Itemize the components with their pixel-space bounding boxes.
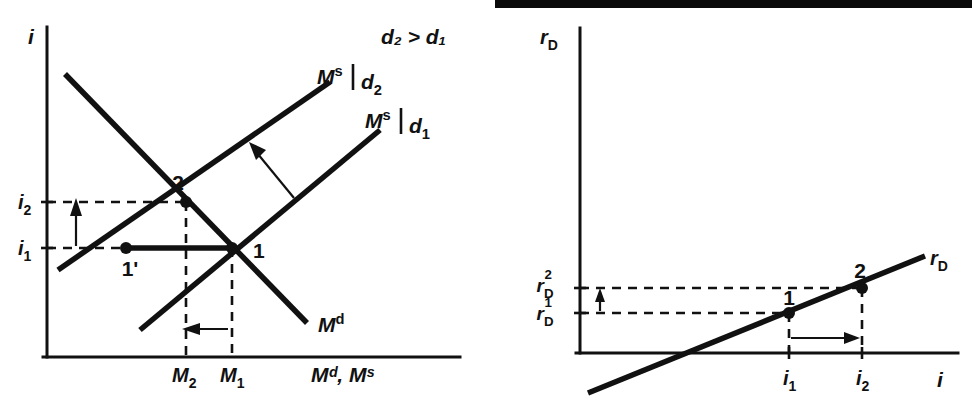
deposit-rate-curve [588, 256, 925, 393]
rd2-sup: 2 [545, 267, 552, 282]
point-2-label: 2 [172, 171, 184, 194]
supply-shift-arrow [249, 142, 294, 198]
rd1-sup: 1 [545, 295, 553, 310]
economics-figure: i Mᵈ, Mˢ d₂ > d₁ Md Ms d1 Ms d2 [0, 0, 972, 412]
ms2-base: M [317, 65, 335, 88]
supply-condition-note: d₂ > d₁ [381, 25, 446, 48]
money-supply-d2-condition: d2 [361, 70, 382, 98]
M1-sub: 1 [237, 375, 245, 391]
M1-tick-label: M1 [220, 364, 245, 391]
right-y-axis-label: rD [540, 26, 558, 53]
i2-sub: 2 [24, 202, 32, 218]
i2r-sub: 2 [862, 378, 870, 394]
rd1-sub: D [544, 314, 554, 329]
md-sup: d [336, 311, 345, 327]
rd-axis-sub: D [548, 37, 558, 53]
left-x-axis-label: Mᵈ, Mˢ [311, 363, 374, 386]
interest-rate-up-arrow [70, 198, 82, 246]
M2-sub: 2 [189, 375, 197, 391]
right-point-2-marker [856, 282, 868, 294]
money-supply-d1-curve [140, 130, 380, 330]
point-1-prime-marker [120, 242, 132, 254]
point-1-label: 1 [253, 239, 265, 262]
money-supply-d1-condition: d1 [409, 114, 430, 142]
i1-sub: 1 [24, 248, 32, 264]
i1-tick-label: i1 [18, 237, 32, 264]
interest-rate-right-arrow [791, 332, 860, 344]
right-x-axis-label: i [937, 368, 944, 391]
M1-base: M [220, 364, 238, 386]
money-supply-d2-label: Ms [317, 63, 343, 88]
point-1-marker [226, 242, 238, 254]
money-quantity-left-arrow [182, 323, 228, 335]
left-y-axis-label: i [28, 25, 35, 48]
deposit-rate-curve-label: rD [930, 247, 948, 274]
money-demand-curve-label: Md [318, 311, 344, 336]
ms1-cond-sub: 1 [422, 126, 430, 142]
point-2-marker [180, 196, 192, 208]
money-market-panel: i Mᵈ, Mˢ d₂ > d₁ Md Ms d1 Ms d2 [18, 25, 460, 391]
ms1-sup: s [383, 107, 391, 123]
supply-condition-note-text: d₂ > d₁ [381, 25, 446, 48]
money-supply-d1-label: Ms [365, 107, 391, 132]
ms2-sup: s [335, 63, 343, 79]
left-x-axis-label-text: Mᵈ, Mˢ [311, 363, 374, 386]
right-point-2-label: 2 [854, 259, 866, 282]
M2-base: M [172, 364, 190, 386]
md-base: M [318, 313, 336, 336]
i1-tick-label-right: i1 [783, 367, 797, 394]
rD1-tick-label: rD1 [536, 295, 553, 329]
rdc-sub: D [938, 258, 948, 274]
i2-tick-label-right: i2 [856, 367, 870, 394]
point-1-prime-label: 1' [122, 257, 139, 280]
deposit-rate-up-arrow [595, 288, 605, 311]
M2-tick-label: M2 [172, 364, 197, 391]
deposit-rate-panel: rD i rD rD2 rD1 i1 i2 [536, 26, 958, 394]
right-point-1-label: 1 [783, 286, 795, 309]
ms2-cond-sub: 2 [374, 82, 382, 98]
ms1-base: M [365, 109, 383, 132]
i1r-sub: 1 [789, 378, 797, 394]
i2-tick-label: i2 [18, 191, 32, 218]
